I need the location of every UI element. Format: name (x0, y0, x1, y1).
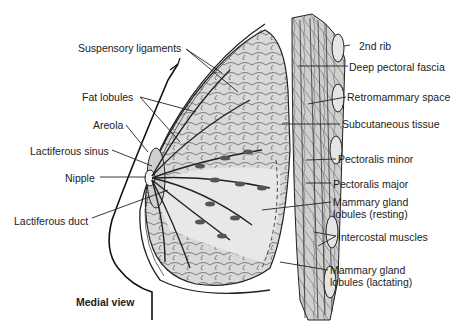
label-2nd-rib: 2nd rib (359, 40, 391, 52)
label-subcutaneous-tissue: Subcutaneous tissue (342, 118, 439, 130)
label-line-1: Mammary gland (333, 196, 408, 208)
label-line-1: Mammary gland (330, 264, 412, 276)
anatomy-diagram: Suspensory ligaments Fat lobules Areola … (0, 0, 462, 332)
label-lactiferous-duct: Lactiferous duct (14, 215, 88, 227)
label-mammary-gland-lobules-resting: Mammary gland lobules (resting) (333, 196, 408, 220)
figure-caption: Medial view (76, 296, 134, 308)
label-retromammary-space: Retromammary space (347, 91, 450, 103)
label-areola: Areola (93, 119, 123, 131)
label-mammary-gland-lobules-lactating: Mammary gland lobules (lactating) (330, 264, 412, 288)
label-lactiferous-sinus: Lactiferous sinus (30, 145, 109, 157)
label-pectoralis-minor: Pectoralis minor (338, 153, 413, 165)
label-line-2: lobules (resting) (333, 208, 408, 220)
label-nipple: Nipple (65, 172, 95, 184)
label-intercostal-muscles: Intercostal muscles (338, 231, 428, 243)
label-pectoralis-major: Pectoralis major (333, 178, 408, 190)
label-fat-lobules: Fat lobules (82, 91, 133, 103)
label-line-2: lobules (lactating) (330, 276, 412, 288)
label-deep-pectoral-fascia: Deep pectoral fascia (349, 61, 445, 73)
label-suspensory-ligaments: Suspensory ligaments (78, 42, 181, 54)
